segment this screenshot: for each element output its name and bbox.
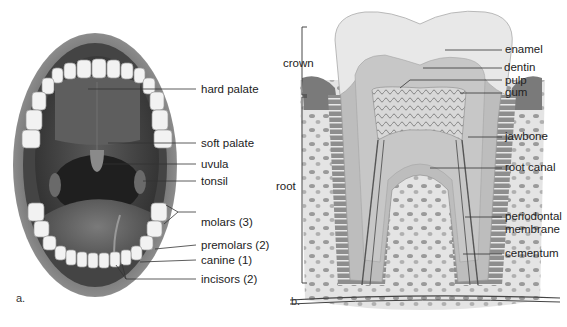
label-canine: canine (1) bbox=[201, 254, 252, 267]
label-molars: molars (3) bbox=[201, 216, 253, 229]
label-root-canal: root canal bbox=[505, 161, 556, 174]
label-soft-palate: soft palate bbox=[201, 137, 254, 150]
panel-mouth: hard palate soft palate uvula tonsil mol… bbox=[0, 0, 280, 327]
panel-tooth: crown root enamel dentin pulp gum jawbon… bbox=[280, 0, 567, 327]
label-enamel: enamel bbox=[505, 43, 543, 56]
label-hard-palate: hard palate bbox=[201, 83, 259, 96]
label-incisors: incisors (2) bbox=[201, 273, 257, 286]
label-dentin: dentin bbox=[504, 61, 535, 74]
bracket-label-crown: crown bbox=[283, 57, 314, 70]
bracket-label-root: root bbox=[276, 180, 296, 193]
panel-letter-b: b. bbox=[291, 295, 300, 307]
label-uvula: uvula bbox=[201, 158, 229, 171]
label-membrane: membrane bbox=[505, 223, 560, 236]
label-cementum: cementum bbox=[505, 247, 559, 260]
label-gum: gum bbox=[505, 86, 527, 99]
label-premolars: premolars (2) bbox=[201, 239, 269, 252]
label-periodontal: periodontal bbox=[505, 210, 562, 223]
panel-letter-a: a. bbox=[16, 292, 25, 304]
label-jawbone: jawbone bbox=[505, 130, 548, 143]
label-tonsil: tonsil bbox=[201, 175, 228, 188]
